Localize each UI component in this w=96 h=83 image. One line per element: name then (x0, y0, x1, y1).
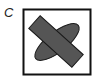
panel-figure (0, 0, 96, 83)
